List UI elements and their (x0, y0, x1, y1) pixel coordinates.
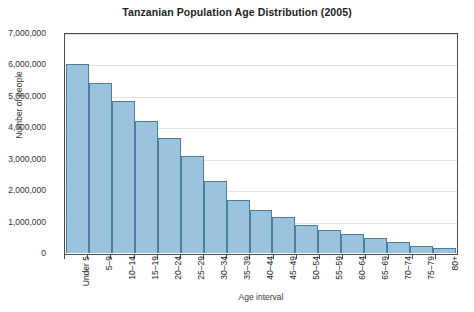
bar (135, 121, 158, 253)
y-tick-label: 0 (41, 248, 46, 258)
y-tick-label: 2,000,000 (8, 185, 46, 195)
bar-slot (272, 35, 295, 253)
y-tick-label: 5,000,000 (8, 91, 46, 101)
bar-slot (204, 35, 227, 253)
bar (364, 238, 387, 253)
bar (387, 242, 410, 253)
bar (89, 83, 112, 253)
bar (410, 246, 433, 253)
bar-slot (364, 35, 387, 253)
x-tick-slot: 80+ (434, 256, 457, 290)
x-axis-title: Age interval (64, 292, 458, 302)
y-tick-label: 1,000,000 (8, 217, 46, 227)
x-tick-slot: Under 5 (65, 256, 88, 290)
bar (227, 200, 250, 253)
bar-slot (89, 35, 112, 253)
bar-slot (227, 35, 250, 253)
x-tick-slot: 25–29 (180, 256, 203, 290)
bar-slot (250, 35, 273, 253)
x-tick-slot: 5–9 (88, 256, 111, 290)
bar-chart-figure: Tanzanian Population Age Distribution (2… (0, 0, 474, 312)
x-tick-slot: 20–24 (157, 256, 180, 290)
x-tick-slot: 30–34 (203, 256, 226, 290)
bar (250, 210, 273, 253)
plot-area (64, 33, 458, 255)
bar-slot (433, 35, 456, 253)
bar-slot (181, 35, 204, 253)
x-tick-slot: 70–74 (388, 256, 411, 290)
bar-slot (112, 35, 135, 253)
bar (341, 234, 364, 253)
bar (66, 64, 89, 253)
x-tick-slot: 75–79 (411, 256, 434, 290)
x-tick-slot: 65–69 (365, 256, 388, 290)
bar-slot (410, 35, 433, 253)
x-tick-label: 80+ (450, 256, 460, 270)
bar-series (66, 35, 456, 253)
bar (272, 217, 295, 253)
bar-slot (295, 35, 318, 253)
chart-title: Tanzanian Population Age Distribution (2… (0, 6, 474, 18)
x-tick-slot: 60–64 (342, 256, 365, 290)
bar-slot (158, 35, 181, 253)
x-tick-slot: 35–39 (226, 256, 249, 290)
bar (181, 156, 204, 253)
x-tick-slot: 45–49 (273, 256, 296, 290)
bar-slot (135, 35, 158, 253)
y-axis-tick-labels: 01,000,0002,000,0003,000,0004,000,0005,0… (0, 0, 62, 312)
x-axis-tick-labels: Under 55–910–1415–1920–2425–2930–3435–39… (65, 256, 457, 290)
bar-slot (318, 35, 341, 253)
x-tick-slot: 40–44 (250, 256, 273, 290)
y-tick-label: 3,000,000 (8, 154, 46, 164)
bar (433, 248, 456, 253)
x-tick-slot: 50–54 (296, 256, 319, 290)
bar-slot (387, 35, 410, 253)
y-tick-label: 4,000,000 (8, 122, 46, 132)
y-tick-label: 7,000,000 (8, 28, 46, 38)
bar (158, 138, 181, 253)
bar-slot (66, 35, 89, 253)
x-tick-slot: 10–14 (111, 256, 134, 290)
x-tick-slot: 55–59 (319, 256, 342, 290)
bar-slot (341, 35, 364, 253)
bar (318, 230, 341, 253)
y-tick-label: 6,000,000 (8, 59, 46, 69)
x-tick-slot: 15–19 (134, 256, 157, 290)
bar (295, 225, 318, 253)
bar (112, 101, 135, 253)
bar (204, 181, 227, 253)
